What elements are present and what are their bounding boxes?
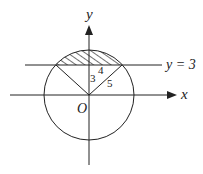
x-axis-arrow-icon — [167, 91, 177, 99]
radius-left — [56, 65, 89, 95]
y-axis-label: y — [84, 6, 93, 22]
x-axis-label: x — [180, 86, 188, 102]
diagram-canvas: y x O y = 3 3 4 5 — [0, 0, 203, 174]
circle-diagram: y x O y = 3 3 4 5 — [0, 0, 203, 174]
line-label: y = 3 — [164, 57, 196, 72]
hypotenuse-label: 5 — [107, 77, 113, 89]
vertical-leg-label: 3 — [90, 72, 96, 84]
horizontal-leg-label: 4 — [98, 64, 104, 76]
origin-label: O — [77, 101, 87, 116]
y-axis-arrow-icon — [85, 25, 93, 35]
